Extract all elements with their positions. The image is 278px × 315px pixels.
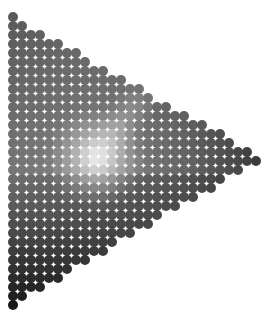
figure-dot <box>125 201 135 211</box>
figure-dot <box>17 57 27 67</box>
figure-dot <box>89 84 99 94</box>
figure-dot <box>53 210 63 220</box>
figure-dot <box>134 129 144 139</box>
figure-dot <box>134 192 144 202</box>
figure-dot <box>89 75 99 85</box>
figure-dot <box>98 147 108 157</box>
figure-dot <box>116 228 126 238</box>
figure-dot <box>206 147 216 157</box>
figure-dot <box>17 264 27 274</box>
figure-dot <box>89 165 99 175</box>
figure-dot <box>134 138 144 148</box>
figure-dot <box>44 120 54 130</box>
figure-dot <box>152 201 162 211</box>
figure-dot <box>17 273 27 283</box>
figure-dot <box>143 129 153 139</box>
figure-dot <box>44 93 54 103</box>
figure-dot <box>44 246 54 256</box>
figure-dot <box>98 183 108 193</box>
figure-dot <box>8 111 18 121</box>
figure-dot <box>71 165 81 175</box>
figure-dot <box>197 165 207 175</box>
figure-dot <box>161 120 171 130</box>
figure-dot <box>53 39 63 49</box>
figure-dot <box>8 102 18 112</box>
figure-dot <box>161 129 171 139</box>
figure-dot <box>26 273 36 283</box>
figure-dot <box>89 147 99 157</box>
figure-dot <box>53 93 63 103</box>
figure-dot <box>125 219 135 229</box>
figure-dot <box>8 93 18 103</box>
figure-dot <box>17 120 27 130</box>
figure-dot <box>98 66 108 76</box>
figure-dot <box>8 237 18 247</box>
figure-dot <box>179 174 189 184</box>
figure-dot <box>89 183 99 193</box>
figure-dot <box>26 237 36 247</box>
figure-dot <box>89 102 99 112</box>
figure-dot <box>80 84 90 94</box>
figure-dot <box>8 282 18 292</box>
figure-dot <box>71 237 81 247</box>
figure-dot <box>71 147 81 157</box>
figure-dot <box>206 165 216 175</box>
figure-dot <box>107 174 117 184</box>
figure-dot <box>44 219 54 229</box>
figure-dot <box>89 246 99 256</box>
figure-dot <box>125 228 135 238</box>
figure-dot <box>143 156 153 166</box>
figure-dot <box>152 174 162 184</box>
figure-dot <box>62 93 72 103</box>
figure-dot <box>197 183 207 193</box>
figure-dot <box>53 183 63 193</box>
figure-dot <box>71 228 81 238</box>
figure-dot <box>71 84 81 94</box>
figure-dot <box>116 201 126 211</box>
figure-dot <box>8 129 18 139</box>
figure-dot <box>152 111 162 121</box>
figure-dot <box>71 183 81 193</box>
figure-dot <box>80 120 90 130</box>
figure-dot <box>170 147 180 157</box>
figure-dot <box>8 228 18 238</box>
figure-dot <box>179 192 189 202</box>
figure-dot <box>116 147 126 157</box>
figure-dot <box>143 174 153 184</box>
figure-dot <box>8 138 18 148</box>
figure-dot <box>26 75 36 85</box>
figure-dot <box>80 75 90 85</box>
figure-dot <box>206 138 216 148</box>
figure-dot <box>134 210 144 220</box>
figure-dot <box>26 120 36 130</box>
figure-dot <box>44 111 54 121</box>
figure-dot <box>89 129 99 139</box>
figure-dot <box>35 102 45 112</box>
figure-dot <box>125 156 135 166</box>
figure-dot <box>44 192 54 202</box>
figure-dot <box>152 120 162 130</box>
figure-dot <box>26 165 36 175</box>
figure-dot <box>53 273 63 283</box>
figure-dot <box>197 138 207 148</box>
figure-dot <box>53 75 63 85</box>
figure-dot <box>161 201 171 211</box>
figure-dot <box>26 93 36 103</box>
figure-dot <box>143 138 153 148</box>
figure-dot <box>161 156 171 166</box>
figure-dot <box>215 156 225 166</box>
figure-dot <box>17 138 27 148</box>
figure-dot <box>35 84 45 94</box>
figure-dot <box>116 75 126 85</box>
figure-dot <box>152 138 162 148</box>
figure-dot <box>161 147 171 157</box>
figure-dot <box>53 255 63 265</box>
figure-dot <box>107 237 117 247</box>
figure-dot <box>80 210 90 220</box>
figure-dot <box>107 111 117 121</box>
figure-dot <box>89 111 99 121</box>
figure-dot <box>26 48 36 58</box>
figure-dot <box>143 165 153 175</box>
figure-dot <box>35 138 45 148</box>
figure-dot <box>152 192 162 202</box>
